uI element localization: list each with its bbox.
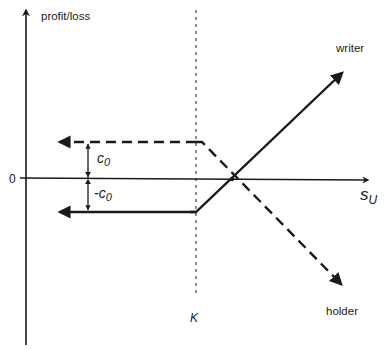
premium-upper-sub: 0 <box>104 156 111 168</box>
holder-label: holder <box>326 305 358 317</box>
writer-label: writer <box>335 42 364 54</box>
x-axis-label: sU <box>360 185 378 207</box>
x-axis-label-sub: U <box>369 193 378 207</box>
premium-lower-label: -c0 <box>94 185 113 203</box>
premium-lower-sub: 0 <box>106 191 113 203</box>
origin-label: 0 <box>9 172 16 186</box>
breakeven-point <box>230 177 234 181</box>
strike-label: K <box>190 311 199 325</box>
premium-upper-label: c0 <box>97 150 111 168</box>
premium-lower-main: -c <box>94 185 106 201</box>
premium-arrows <box>85 144 91 210</box>
payoff-diagram: profit/loss 0 sU K holder writer c0 -c0 <box>0 0 385 350</box>
x-axis <box>20 178 368 180</box>
y-axis-label: profit/loss <box>41 10 90 22</box>
premium-upper-main: c <box>97 150 104 166</box>
